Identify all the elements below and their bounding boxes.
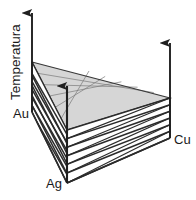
vertex-label-cu: Cu (174, 132, 191, 147)
temperature-axis-label: Temperatura (8, 24, 23, 100)
ternary-diagram-svg: Temperatura Au Ag Cu (0, 0, 196, 200)
vertex-label-au: Au (13, 106, 29, 121)
vertex-label-ag: Ag (46, 176, 62, 191)
figure-canvas: Temperatura Au Ag Cu (0, 0, 196, 200)
